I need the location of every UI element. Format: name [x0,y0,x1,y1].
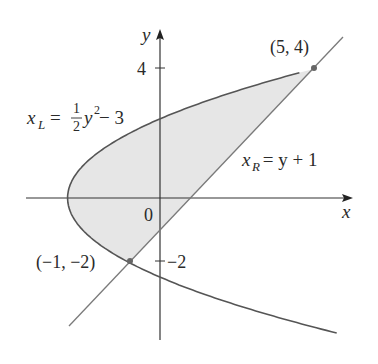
point-upper-intersection [311,65,317,71]
right-line-label: x R = y + 1 [241,149,317,174]
left-curve-label-eq: = [50,107,61,128]
left-curve-label-tail: − 3 [99,107,124,128]
point-lower-intersection [127,258,133,264]
y-tick-label-4: 4 [137,59,146,79]
origin-label: 0 [144,205,153,225]
left-curve-label-y: y [82,107,93,128]
left-curve-label-frac-den: 2 [73,119,80,134]
y-axis-label: y [140,24,151,45]
x-axis-label: x [341,201,351,222]
right-line-label-rest: = y + 1 [258,149,317,170]
left-curve-label-var: x [26,107,36,128]
point-label-lower: (−1, −2) [36,252,95,273]
diagram-canvas: y x 0 4 −2 (5, 4) (−1, −2) x L = 1 2 y 2… [0,0,378,364]
left-curve-label: x L = 1 2 y 2 − 3 [26,101,124,134]
y-tick-label-neg2: −2 [167,252,186,272]
point-label-upper: (5, 4) [270,37,309,58]
left-curve-label-sub: L [37,117,45,132]
right-line-label-var: x [241,149,251,170]
left-curve-label-frac-num: 1 [73,101,80,116]
